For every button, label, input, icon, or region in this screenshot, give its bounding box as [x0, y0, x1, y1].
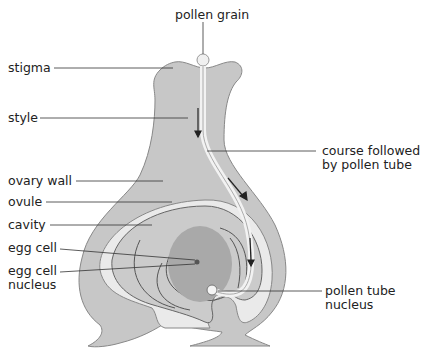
label-pollen-grain: pollen grain — [175, 8, 249, 22]
label-stigma: stigma — [8, 61, 51, 75]
label-course-line1: course followed — [322, 144, 420, 158]
pollen-tube-nucleus — [207, 285, 217, 295]
label-ptn-line1: pollen tube — [325, 284, 396, 298]
pollen-grain — [197, 54, 209, 66]
label-ptn-line2: nucleus — [325, 298, 373, 312]
label-ovule: ovule — [8, 195, 42, 209]
label-course-line2: by pollen tube — [322, 158, 412, 172]
label-egg-cell: egg cell — [8, 241, 57, 255]
label-egg-nucleus-line1: egg cell — [8, 264, 57, 278]
label-egg-nucleus-line2: nucleus — [8, 278, 56, 292]
label-cavity: cavity — [8, 218, 46, 232]
label-style: style — [8, 111, 38, 125]
label-ovary-wall: ovary wall — [8, 174, 72, 188]
egg-cell-nucleus-dot — [195, 260, 200, 265]
